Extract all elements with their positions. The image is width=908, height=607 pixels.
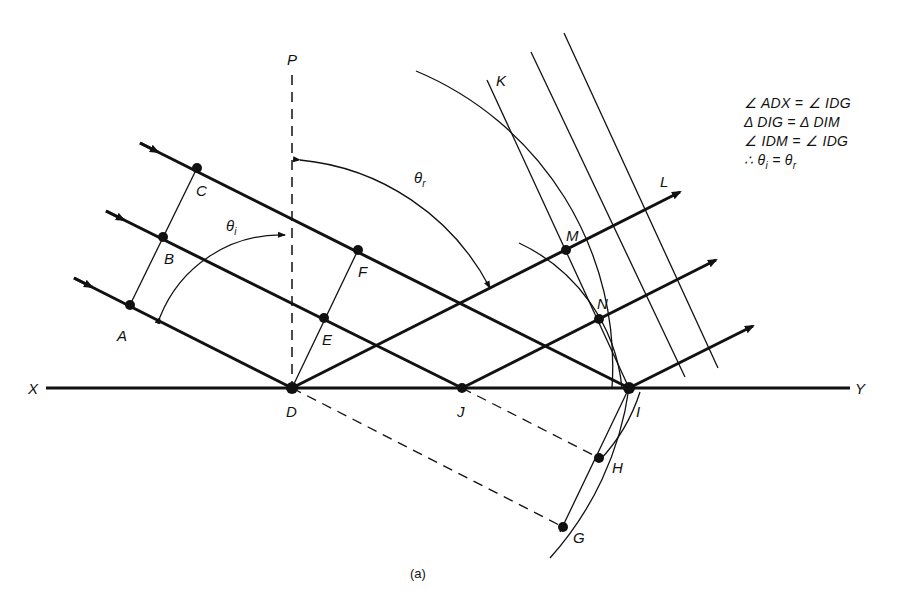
theta-r-arc [300,160,490,288]
label-theta-i: θi [226,218,236,233]
label-p: P [287,52,297,67]
incident-rays [74,143,629,388]
equation-2: Δ DIG = Δ DIM [744,115,840,129]
label-i: I [636,404,640,419]
reflected-rays [292,192,753,388]
label-m: M [566,228,579,243]
label-e: E [322,332,332,347]
equation-1: ∠ ADX = ∠ IDG [744,96,851,110]
incident-arrow-icons [74,143,158,287]
label-theta-r: θr [414,170,425,185]
construction-dashed-lines [292,388,599,527]
label-y: Y [855,381,865,396]
label-f: F [358,264,367,279]
label-j: J [457,404,465,419]
reflection-diagram [0,0,908,607]
label-g: G [573,530,585,545]
label-c: C [196,183,207,198]
equation-3: ∠ IDM = ∠ IDG [744,134,848,148]
label-l: L [660,174,668,189]
label-b: B [164,251,174,266]
equation-4: ∴ θi = θr [744,153,796,167]
figure-caption: (a) [410,566,426,581]
label-a: A [117,328,127,343]
label-x: X [28,381,38,396]
label-n: N [597,296,608,311]
label-k: K [496,73,506,88]
label-h: H [612,460,623,475]
label-d: D [286,404,297,419]
